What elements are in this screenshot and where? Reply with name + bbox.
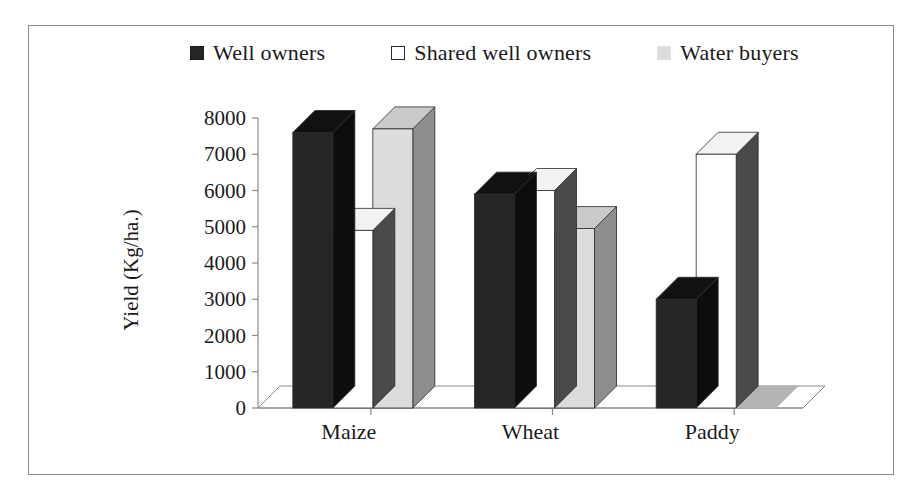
y-axis-ticks: 010002000300040005000600070008000: [204, 106, 734, 420]
plot-area: 010002000300040005000600070008000 MaizeW…: [0, 0, 921, 503]
y-tick-label: 0: [236, 396, 247, 420]
x-category-label: Maize: [321, 419, 376, 444]
bars-layer: [293, 107, 798, 408]
y-tick-label: 2000: [204, 324, 246, 348]
x-axis-categories: MaizeWheatPaddy: [321, 419, 739, 444]
chart-canvas: 010002000300040005000600070008000 MaizeW…: [0, 0, 921, 503]
chart-figure: Well owners Shared well owners Water buy…: [0, 0, 921, 503]
x-category-label: Wheat: [502, 419, 559, 444]
bar-wheat-well-owners: [475, 172, 537, 408]
y-tick-label: 5000: [204, 215, 246, 239]
bar-maize-well-owners: [293, 111, 355, 409]
y-tick-label: 8000: [204, 106, 246, 130]
y-tick-label: 4000: [204, 251, 246, 275]
y-tick-label: 7000: [204, 142, 246, 166]
y-tick-label: 6000: [204, 179, 246, 203]
y-tick-label: 1000: [204, 360, 246, 384]
y-tick-label: 3000: [204, 287, 246, 311]
bar-paddy-well-owners: [656, 277, 718, 408]
x-category-label: Paddy: [685, 419, 740, 444]
